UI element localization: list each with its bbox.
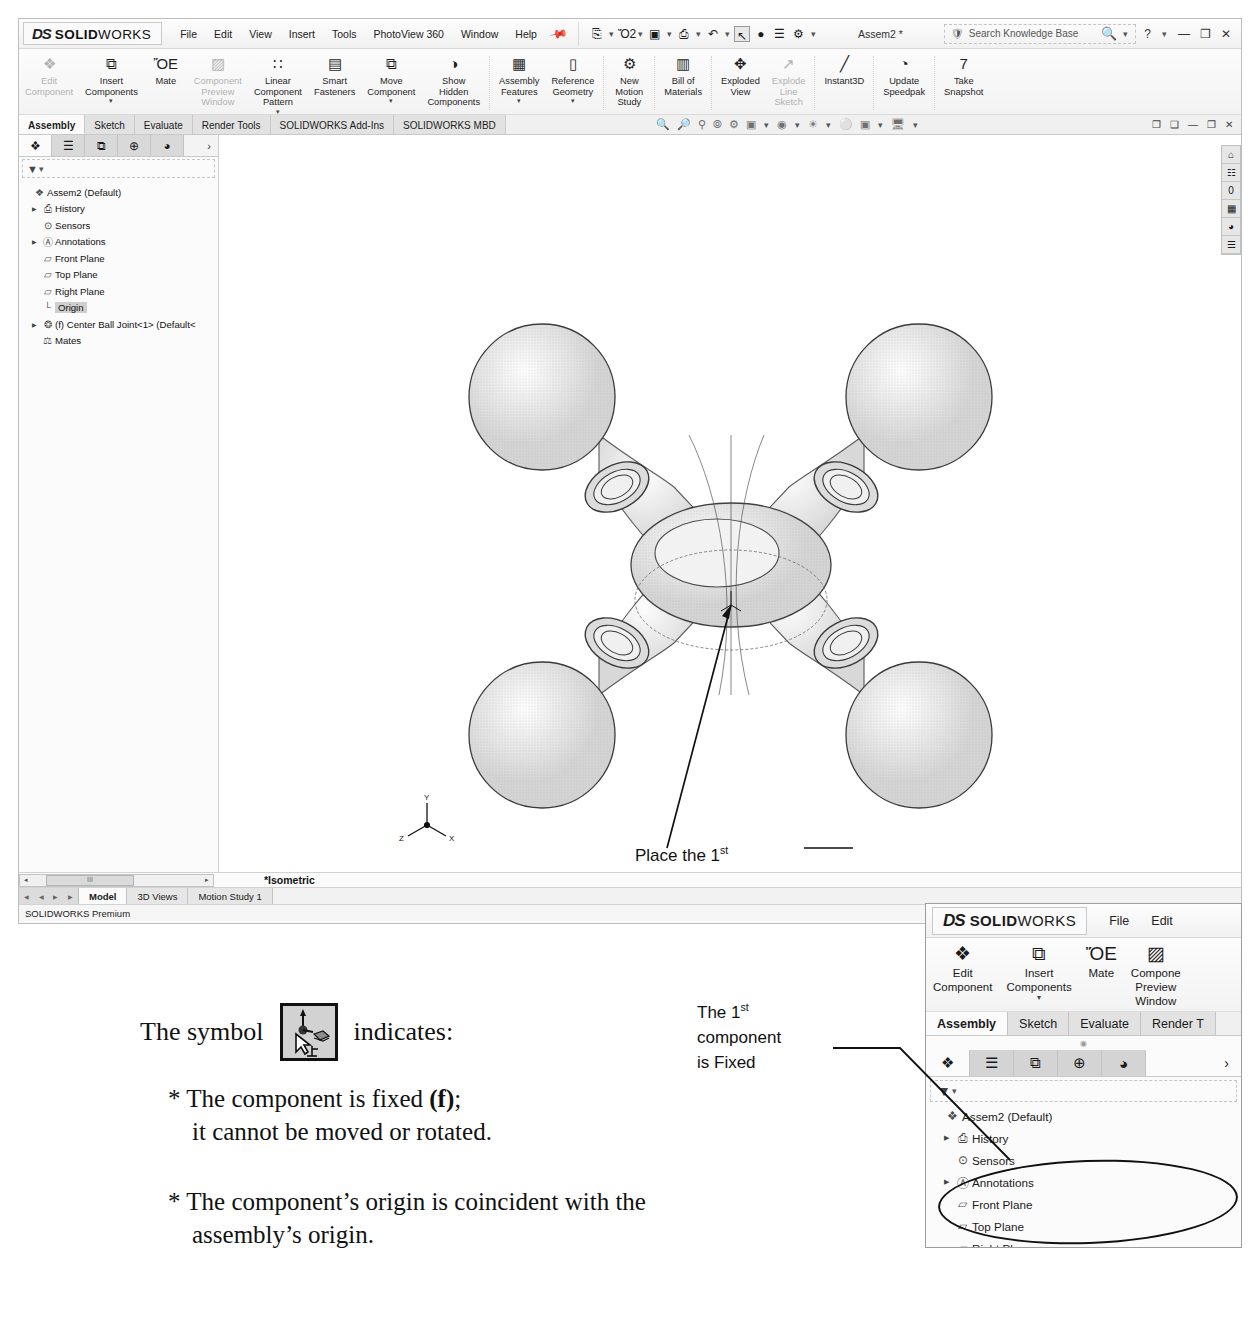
tab-solidworks-mbd[interactable]: SOLIDWORKS MBD	[394, 115, 506, 134]
zoom-to-area-icon[interactable]: 🔎	[677, 118, 691, 131]
menu-item-view[interactable]: View	[249, 28, 272, 40]
ribbon-button-caret[interactable]: ▾	[276, 109, 280, 115]
ribbon-button-exploded-view[interactable]: ✥ Exploded View	[715, 52, 766, 97]
tab-nav-arrows[interactable]: ◀◀▶▶	[19, 888, 79, 904]
inset-dimxpert-manager-tab[interactable]: ⊕	[1058, 1050, 1102, 1076]
tab-render-tools[interactable]: Render Tools	[193, 115, 271, 134]
tree-node[interactable]: ⊙ Sensors	[21, 217, 218, 234]
feature-manager-tab[interactable]: ❖	[19, 135, 52, 156]
inset-tree-tab-expand-arrow[interactable]: ›	[1212, 1050, 1241, 1076]
view-tool-caret[interactable]: ▾	[764, 120, 769, 130]
view-tool-caret[interactable]: ▾	[826, 120, 831, 130]
scroll-right-arrow[interactable]: ▸	[201, 876, 213, 884]
tree-node[interactable]: ⚖ Mates	[21, 333, 218, 350]
dropdown-caret[interactable]: ▾	[638, 29, 643, 39]
tree-node[interactable]: ▱ Top Plane	[21, 267, 218, 284]
view-window-control-1[interactable]: ❑	[1170, 119, 1179, 130]
design-library-icon[interactable]: ☷	[1222, 164, 1240, 182]
tab-evaluate[interactable]: Evaluate	[135, 115, 193, 134]
dropdown-caret[interactable]: ▾	[696, 29, 701, 39]
view-window-controls[interactable]: ❐❑—❐✕	[1152, 115, 1241, 134]
tree-node[interactable]: └ Origin	[21, 300, 218, 317]
search-icon[interactable]: 🔍	[1101, 26, 1117, 41]
ribbon-button-caret[interactable]: ▾	[571, 98, 575, 104]
search-dropdown-caret[interactable]: ▾	[1123, 29, 1128, 39]
view-window-control-2[interactable]: —	[1188, 119, 1198, 130]
view-palette-icon[interactable]: ▦	[1222, 200, 1240, 218]
inset-configuration-manager-tab[interactable]: ⧉	[1014, 1050, 1058, 1076]
task-pane-toolbar[interactable]: ⌂☷὜0▦◕☰	[1221, 145, 1241, 255]
menu-item-window[interactable]: Window	[461, 28, 498, 40]
inset-property-manager-tab[interactable]: ☰	[970, 1050, 1014, 1076]
tree-node[interactable]: ▶ Ⓐ Annotations	[21, 234, 218, 251]
new-document-icon[interactable]: ⎘	[589, 26, 605, 42]
select-cursor-icon[interactable]: ↖	[734, 26, 750, 42]
ribbon-button-caret[interactable]: ▾	[109, 98, 113, 104]
qat-overflow-caret[interactable]: ▾	[811, 29, 816, 39]
inset-tab-evaluate[interactable]: Evaluate	[1069, 1012, 1141, 1035]
inset-ribbon-button-insert-components[interactable]: ⧉ Insert Components ▾	[999, 942, 1078, 1002]
scroll-left-arrow[interactable]: ◂	[20, 876, 32, 884]
tree-tab-expand-arrow[interactable]: ›	[200, 135, 218, 156]
property-manager-tab[interactable]: ☰	[52, 135, 85, 156]
display-manager-tab[interactable]: ◕	[151, 135, 184, 156]
model-tab-model[interactable]: Model	[79, 888, 127, 904]
zoom-to-fit-icon[interactable]: 🔍	[656, 118, 670, 131]
model-tab-motion-study-1[interactable]: Motion Study 1	[188, 888, 272, 904]
inset-menu-item-file[interactable]: File	[1109, 914, 1129, 928]
configuration-manager-tab[interactable]: ⧉	[85, 135, 118, 156]
feature-tree[interactable]: ❖ Assem2 (Default) ▶ ⎙ History ⊙ Sensors…	[19, 180, 218, 349]
feature-manager-tab-strip[interactable]: ❖☰⧉⊕◕›	[19, 135, 218, 157]
open-folder-icon[interactable]: Ὄ2	[618, 26, 634, 42]
inset-tab-render-t[interactable]: Render T	[1141, 1012, 1216, 1035]
menu-item-insert[interactable]: Insert	[289, 28, 315, 40]
tree-expand-arrow[interactable]: ▶	[29, 321, 40, 328]
inset-ribbon-button-mate[interactable]: ὌE Mate	[1079, 942, 1124, 980]
ribbon-button-reference-geometry[interactable]: ▯ Reference Geometry ▾	[545, 52, 600, 104]
home-icon[interactable]: ⌂	[1222, 146, 1240, 164]
ribbon-tab-row[interactable]: AssemblySketchEvaluateRender ToolsSOLIDW…	[19, 115, 1241, 135]
inset-tree-expand-arrow[interactable]: ▶	[939, 1134, 953, 1142]
tab-assembly[interactable]: Assembly	[19, 115, 85, 134]
ribbon-button-smart-fasteners[interactable]: ▤ Smart Fasteners	[308, 52, 361, 97]
view-toolbar[interactable]: 🔍🔎⚲⦾⚙▣▾◉▾☀▾⚪▣▾🖥▾	[656, 115, 919, 134]
ribbon-button-caret[interactable]: ▾	[517, 98, 521, 104]
quick-access-toolbar[interactable]: ⎘▾Ὄ2▾▣▾⎙▾↶▾↖●☰⚙▾	[578, 22, 817, 46]
ribbon-button-assembly-features[interactable]: ▦ Assembly Features ▾	[493, 52, 545, 104]
undo-icon[interactable]: ↶	[705, 26, 721, 42]
ribbon-button-insert-components[interactable]: ⧉ Insert Components ▾	[79, 52, 144, 104]
inset-tab-row[interactable]: AssemblySketchEvaluateRender T	[926, 1012, 1241, 1036]
ribbon-button-show-hidden-components[interactable]: ◑ Show Hidden Components	[421, 52, 486, 108]
inset-tree-node[interactable]: ▶ ⎙ History	[929, 1127, 1241, 1149]
custom-properties-icon[interactable]: ☰	[1222, 236, 1240, 254]
search-knowledge-base-input[interactable]: 🛡 Search Knowledge Base 🔍 ▾	[944, 24, 1137, 44]
appearances-scenes-icon[interactable]: ◕	[1222, 218, 1240, 236]
minimize-button[interactable]: —	[1178, 27, 1190, 41]
menu-item-edit[interactable]: Edit	[214, 28, 232, 40]
view-orientation-icon[interactable]: ▣	[746, 118, 756, 131]
dimxpert-manager-tab[interactable]: ⊕	[118, 135, 151, 156]
tree-filter-input[interactable]: ▼▾	[22, 159, 215, 178]
inset-menu-bar[interactable]: FileEdit	[1109, 914, 1173, 928]
apply-scene-icon[interactable]: ▣	[860, 118, 870, 131]
inset-tree-node[interactable]: ❖ Assem2 (Default)	[929, 1105, 1241, 1127]
print-icon[interactable]: ⎙	[676, 26, 692, 42]
inset-ribbon-button-component-preview-window[interactable]: ▨ Compone Preview Window	[1124, 942, 1188, 1008]
display-style-icon[interactable]: ◉	[777, 118, 787, 131]
inset-feature-manager-tab[interactable]: ❖	[926, 1050, 970, 1076]
inset-tree-expand-arrow[interactable]: ▶	[939, 1178, 953, 1186]
file-explorer-icon[interactable]: ὜0	[1222, 182, 1240, 200]
model-tab-bar[interactable]: ◀◀▶▶ Model3D ViewsMotion Study 1	[19, 887, 1241, 904]
inset-ribbon-button-edit-component[interactable]: ❖ Edit Component	[926, 942, 999, 994]
ribbon-button-explode-line-sketch[interactable]: ↗ Explode Line Sketch	[766, 52, 812, 108]
inset-tree-tab-strip[interactable]: ❖☰⧉⊕◕›	[926, 1050, 1241, 1077]
dropdown-caret[interactable]: ▾	[609, 29, 614, 39]
dropdown-caret[interactable]: ▾	[725, 29, 730, 39]
ribbon-button-move-component[interactable]: ⧉ Move Component ▾	[361, 52, 421, 104]
view-window-control-3[interactable]: ❐	[1207, 119, 1216, 130]
ribbon-button-new-motion-study[interactable]: ⚙ New Motion Study	[607, 52, 651, 108]
inset-tab-sketch[interactable]: Sketch	[1008, 1012, 1069, 1035]
ribbon-button-linear-component-pattern[interactable]: ∷ Linear Component Pattern ▾	[248, 52, 308, 115]
inset-menu-item-edit[interactable]: Edit	[1151, 914, 1173, 928]
inset-ribbon[interactable]: ❖ Edit Component ⧉ Insert Components ▾ Ὄ…	[926, 938, 1241, 1012]
